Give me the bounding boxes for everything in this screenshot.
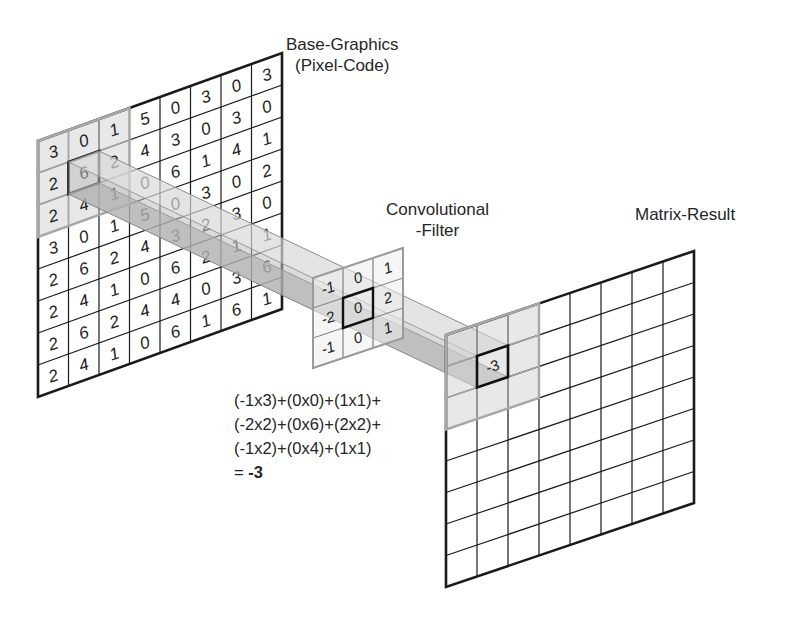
matrix-cell-value: 2 (106, 311, 122, 332)
matrix-cell-value: 0 (137, 268, 152, 289)
beam-top-face (69, 151, 509, 356)
matrix-cell-value: 0 (168, 97, 183, 118)
matrix-cell-value: 0 (259, 96, 274, 117)
matrix-cell-value: 4 (76, 354, 91, 375)
matrix-cell-value: 2 (45, 333, 61, 354)
matrix-result-grid: -3 (446, 251, 694, 587)
matrix-cell-value: 1 (198, 150, 213, 171)
matrix-cell-value: 6 (229, 299, 244, 320)
matrix-cell-value: 3 (229, 107, 244, 128)
matrix-cell-value: 4 (76, 290, 91, 311)
matrix-cell-value: 5 (137, 108, 152, 129)
matrix-cell-value: 4 (137, 300, 152, 321)
matrix-cell-value: 6 (168, 257, 183, 278)
matrix-result-title: Matrix-Result (635, 204, 735, 225)
convolution-diagram: 3015030326243030241061413015030226243230… (0, 0, 800, 620)
matrix-cell-value: 0 (137, 332, 152, 353)
convolutional-filter-title: Convolutional -Filter (386, 199, 489, 241)
projection-beam (69, 151, 509, 388)
base-graphics-title: Base-Graphics (Pixel-Code) (286, 34, 398, 76)
result-title-text: Matrix-Result (635, 204, 735, 225)
matrix-cell-value: 0 (229, 171, 244, 192)
matrix-cell-value: 6 (76, 258, 91, 279)
formula-line-2: (-2x2)+(0x6)+(2x2)+ (234, 412, 381, 436)
matrix-cell-value: 1 (259, 128, 274, 149)
base-graphics-title-line2: (Pixel-Code) (286, 55, 398, 76)
formula-result-line: = -3 (234, 460, 381, 484)
matrix-cell-value: 1 (198, 310, 213, 331)
matrix-cell-value: 0 (76, 226, 91, 247)
matrix-cell-value: 3 (46, 237, 61, 258)
matrix-cell-value: 4 (137, 140, 152, 161)
filter-title-line1: Convolutional (386, 199, 489, 220)
matrix-cell-value: 4 (137, 236, 152, 257)
matrix-cell-value: 0 (229, 75, 244, 96)
base-graphics-title-line1: Base-Graphics (286, 34, 398, 55)
matrix-cell-value: 1 (259, 288, 274, 309)
formula-result-value: -3 (248, 463, 263, 481)
formula-line-3: (-1x2)+(0x4)+(1x1) (234, 436, 381, 460)
matrix-cell-value: 1 (107, 279, 122, 300)
matrix-cell-value: 3 (259, 64, 274, 85)
matrix-cell-value: 0 (198, 278, 213, 299)
matrix-cell-value: 2 (45, 269, 61, 290)
matrix-cell-value: 6 (168, 321, 183, 342)
matrix-cell-value: 2 (45, 365, 61, 386)
diagram-canvas: 3015030326243030241061413015030226243230… (0, 0, 800, 620)
matrix-cell-value: 3 (168, 129, 183, 150)
matrix-cell-value: 4 (229, 139, 244, 160)
matrix-cell-value: 2 (259, 160, 275, 181)
filter-title-line2: -Filter (386, 220, 489, 241)
equals-sign: = (234, 463, 248, 481)
matrix-cell-value: 3 (198, 86, 213, 107)
convolution-formula: (-1x3)+(0x0)+(1x1)+ (-2x2)+(0x6)+(2x2)+ … (234, 388, 381, 484)
matrix-cell-value: 6 (76, 322, 91, 343)
matrix-cell-value: 6 (168, 161, 183, 182)
matrix-cell-value: 2 (106, 247, 122, 268)
formula-line-1: (-1x3)+(0x0)+(1x1)+ (234, 388, 381, 412)
matrix-cell-value: 4 (168, 289, 183, 310)
matrix-cell-value: 1 (107, 343, 122, 364)
matrix-cell-value: 0 (259, 192, 274, 213)
matrix-cell-value: 2 (45, 301, 61, 322)
matrix-cell-value: 0 (198, 118, 213, 139)
